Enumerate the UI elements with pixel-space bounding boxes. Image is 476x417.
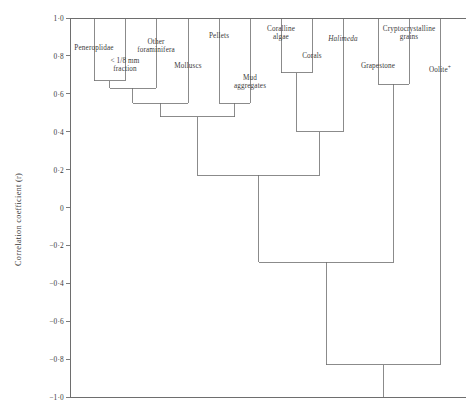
- leaf-label-mud_aggregates: Mudaggregates: [221, 74, 279, 91]
- y-axis-tick-label: −1·0: [24, 393, 64, 402]
- y-axis-title: Correlation coefficient (r): [14, 172, 23, 265]
- y-axis-tick-label: −0·2: [24, 241, 64, 250]
- y-axis-tick-label: 0·2: [24, 165, 64, 174]
- leaf-label-molluscs: Molluscs: [159, 62, 217, 70]
- leaf-label-pellets: Pellets: [190, 32, 248, 40]
- y-axis-tick-label: 1·0: [24, 14, 64, 23]
- leaf-label-coralline_algae: Corallinealgae: [252, 25, 310, 42]
- dendrogram-figure: Correlation coefficient (r) 1·00·80·60·4…: [0, 0, 476, 417]
- y-axis-tick-label: −0·6: [24, 317, 64, 326]
- leaf-label-halimeda: Halimeda: [314, 35, 372, 43]
- y-axis-tick-label: 0·4: [24, 127, 64, 136]
- y-axis-tick-label: 0·6: [24, 89, 64, 98]
- leaf-label-other_foraminifera: Otherforaminifera: [127, 38, 185, 55]
- leaf-label-corals: Corals: [283, 52, 341, 60]
- leaf-label-superscript: +: [448, 64, 451, 70]
- leaf-label-grapestone: Grapestone: [349, 62, 407, 70]
- leaf-label-oolite: Oolite+: [411, 63, 469, 75]
- leaf-label-fine_fraction: < 1/8 mmfraction: [96, 57, 154, 74]
- y-axis-tick-label: 0·8: [24, 51, 64, 60]
- y-axis-tick-label: −0·4: [24, 279, 64, 288]
- y-axis-tick-label: −0·8: [24, 355, 64, 364]
- leaf-label-cryptocrystalline_grains: Cryptocrystallinegrains: [380, 25, 438, 42]
- y-axis-tick-label: 0: [24, 203, 64, 212]
- leaf-label-peneroplidae: Peneroplidae: [65, 44, 123, 52]
